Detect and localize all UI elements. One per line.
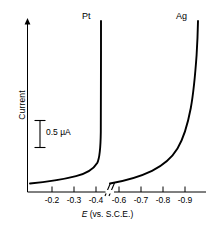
- x-tick-label-1: -0.3: [67, 196, 82, 205]
- x-tick-label-2: -0.4: [89, 196, 104, 205]
- x-tick-label-4: -0.7: [134, 196, 149, 205]
- scale-bar-label: 0.5 µA: [46, 128, 71, 137]
- y-axis-arrow-icon: [25, 18, 31, 25]
- voltammogram-figure: Pt Ag Current 0.5 µA -0.2 -0.3 -0.4 -0.6…: [0, 0, 215, 232]
- y-axis-title: Current: [17, 90, 27, 119]
- x-tick-label-0: -0.2: [45, 196, 60, 205]
- x-axis-ticks: [52, 187, 185, 193]
- x-tick-label-6: -0.9: [178, 196, 193, 205]
- x-tick-label-5: -0.8: [156, 196, 171, 205]
- curve-label-pt: Pt: [82, 12, 91, 21]
- y-axis-title-wrap: Current: [11, 73, 25, 137]
- x-axis-title-rest: (vs. S.C.E.): [87, 209, 133, 219]
- x-tick-label-3: -0.6: [112, 196, 127, 205]
- curve-ag: [110, 21, 198, 184]
- curve-pt: [30, 21, 101, 184]
- x-axis-title: E (vs. S.C.E.): [0, 210, 215, 219]
- axis-break-gap: [106, 190, 115, 194]
- scale-bar: [35, 120, 46, 148]
- curve-label-ag: Ag: [176, 12, 187, 21]
